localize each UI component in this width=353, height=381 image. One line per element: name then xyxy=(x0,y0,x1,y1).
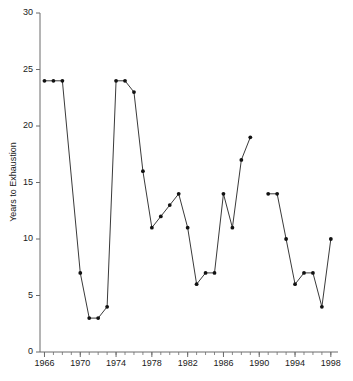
data-point xyxy=(204,271,208,275)
line-chart: 051015202530 196619701974197819821986199… xyxy=(0,0,353,381)
data-point xyxy=(141,169,145,173)
data-point xyxy=(329,237,333,241)
series-line xyxy=(44,81,250,318)
data-point xyxy=(284,237,288,241)
data-point xyxy=(132,90,136,94)
chart-container: 051015202530 196619701974197819821986199… xyxy=(0,0,353,381)
y-tick-label: 0 xyxy=(28,346,33,356)
series-line xyxy=(268,194,331,307)
data-point xyxy=(52,79,56,83)
x-axis-ticks: 196619701974197819821986199019941998 xyxy=(34,352,340,368)
x-tick-label: 1994 xyxy=(285,358,305,368)
data-point xyxy=(87,316,91,320)
data-point xyxy=(177,192,181,196)
x-tick-label: 1970 xyxy=(70,358,90,368)
y-tick-label: 15 xyxy=(23,177,33,187)
x-tick-label: 1998 xyxy=(321,358,341,368)
data-point xyxy=(222,192,226,196)
data-point xyxy=(311,271,315,275)
x-tick-label: 1990 xyxy=(249,358,269,368)
data-point xyxy=(293,282,297,286)
y-tick-label: 30 xyxy=(23,7,33,17)
x-tick-label: 1978 xyxy=(142,358,162,368)
data-point xyxy=(123,79,127,83)
axis-lines xyxy=(40,13,338,352)
y-tick-label: 10 xyxy=(23,233,33,243)
data-point xyxy=(320,305,324,309)
data-point xyxy=(302,271,306,275)
data-point xyxy=(239,158,243,162)
data-point xyxy=(275,192,279,196)
data-point xyxy=(150,226,154,230)
data-point xyxy=(195,282,199,286)
x-tick-label: 1974 xyxy=(106,358,126,368)
y-tick-label: 5 xyxy=(28,290,33,300)
data-point xyxy=(186,226,190,230)
data-point xyxy=(114,79,118,83)
data-point xyxy=(168,203,172,207)
data-point xyxy=(213,271,217,275)
data-point xyxy=(78,271,82,275)
y-tick-label: 20 xyxy=(23,120,33,130)
data-point xyxy=(248,135,252,139)
data-point xyxy=(43,79,47,83)
y-axis-label: Years to Exhaustion xyxy=(8,142,18,222)
data-point xyxy=(105,305,109,309)
x-tick-label: 1966 xyxy=(34,358,54,368)
x-tick-label: 1986 xyxy=(213,358,233,368)
data-series-group xyxy=(43,79,333,320)
y-axis-ticks: 051015202530 xyxy=(23,7,40,356)
data-point xyxy=(159,215,163,219)
data-point xyxy=(231,226,235,230)
data-point xyxy=(60,79,64,83)
data-point xyxy=(266,192,270,196)
x-tick-label: 1982 xyxy=(178,358,198,368)
data-point xyxy=(96,316,100,320)
y-tick-label: 25 xyxy=(23,64,33,74)
